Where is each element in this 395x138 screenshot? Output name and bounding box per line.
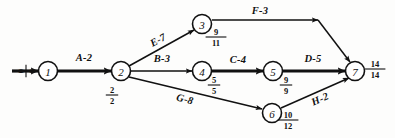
edge-h[interactable]: H-2 [281, 78, 349, 108]
edge-line-g [129, 77, 262, 109]
edge-d[interactable]: D-5 [283, 53, 345, 72]
node-time-7: 1414 [365, 59, 386, 80]
node-time-denominator-2: 2 [110, 96, 114, 106]
node-time-numerator-5: 9 [284, 75, 288, 85]
nodes-layer: 10022239114555996101271414 [16, 15, 385, 132]
node-time-denominator-6: 12 [284, 121, 293, 131]
node-4[interactable]: 4 [193, 62, 212, 81]
node-label-6: 6 [269, 108, 275, 120]
edge-label-g: G-8 [175, 92, 195, 107]
node-label-4: 4 [199, 66, 205, 78]
node-time-1: 00 [16, 65, 37, 77]
node-time-numerator-2: 2 [110, 85, 114, 95]
node-label-5: 5 [270, 66, 276, 78]
node-time-numerator-4: 5 [212, 75, 216, 85]
edge-c[interactable]: C-4 [212, 54, 263, 72]
edge-b[interactable]: B-3 [131, 53, 192, 72]
node-time-denominator-5: 9 [284, 86, 288, 96]
network-diagram-canvas: A-2E-7B-3G-8F-3C-4D-5H-2 100222391145559… [0, 0, 395, 138]
edge-label-d: D-5 [303, 53, 321, 64]
node-time-5: 99 [280, 75, 292, 96]
edge-f[interactable]: F-3 [212, 5, 318, 21]
edge-label-b: B-3 [153, 53, 171, 64]
edge-line-f2 [318, 20, 350, 62]
edge-label-f: F-3 [251, 5, 269, 16]
edge-label-c: C-4 [230, 54, 247, 65]
edge-label-a: A-2 [75, 52, 93, 63]
node-time-denominator-1: 0 [27, 69, 37, 73]
node-time-numerator-6: 10 [284, 110, 293, 120]
node-time-denominator-3: 11 [212, 38, 220, 48]
node-time-numerator-7: 14 [371, 59, 380, 69]
node-label-1: 1 [45, 66, 51, 78]
node-1[interactable]: 1 [39, 62, 58, 81]
edges-layer: A-2E-7B-3G-8F-3C-4D-5H-2 [12, 5, 350, 110]
network-diagram-svg: A-2E-7B-3G-8F-3C-4D-5H-2 100222391145559… [0, 0, 395, 138]
node-5[interactable]: 5 [264, 62, 283, 81]
edge-a[interactable]: A-2 [58, 52, 111, 72]
node-label-7: 7 [352, 66, 358, 78]
node-time-numerator-1: 0 [16, 69, 26, 73]
node-3[interactable]: 3 [193, 15, 212, 34]
node-time-denominator-4: 5 [212, 86, 216, 96]
node-time-4: 55 [208, 75, 220, 96]
node-time-numerator-3: 9 [214, 27, 218, 37]
node-2[interactable]: 2 [112, 62, 131, 81]
node-label-3: 3 [198, 19, 205, 31]
node-7[interactable]: 7 [346, 62, 365, 81]
edge-label-h: H-2 [309, 90, 331, 108]
node-time-denominator-7: 14 [371, 70, 380, 80]
edge-f2[interactable] [318, 20, 350, 62]
node-time-2: 22 [106, 85, 118, 106]
node-label-2: 2 [118, 66, 124, 78]
edge-g[interactable]: G-8 [129, 77, 262, 109]
